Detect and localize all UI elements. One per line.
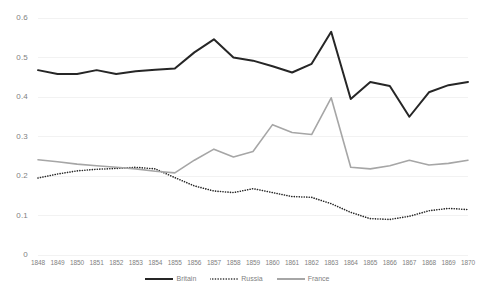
legend-item-britain[interactable]: Britain	[145, 274, 196, 283]
y-axis-tick-label: 0	[2, 250, 28, 259]
legend-swatch-russia-icon	[210, 275, 238, 283]
y-axis-tick-label: 0.6	[2, 13, 28, 22]
legend-swatch-britain-icon	[145, 275, 173, 283]
chart-legend: BritainRussiaFrance	[0, 274, 475, 283]
legend-item-russia[interactable]: Russia	[210, 274, 262, 283]
series-line-russia	[38, 167, 468, 219]
legend-label: Russia	[241, 274, 262, 283]
y-axis-tick-label: 0.2	[2, 171, 28, 180]
y-axis-tick-label: 0.5	[2, 53, 28, 62]
y-axis-tick-label: 0.3	[2, 132, 28, 141]
y-axis-tick-label: 0.4	[2, 92, 28, 101]
legend-label: France	[308, 274, 330, 283]
y-axis-tick-label: 0.1	[2, 211, 28, 220]
gridlines	[38, 18, 468, 255]
series-line-britain	[38, 32, 468, 117]
legend-item-france[interactable]: France	[277, 274, 330, 283]
legend-swatch-france-icon	[277, 275, 305, 283]
x-axis-tick-label: 1870	[456, 259, 480, 267]
legend-label: Britain	[176, 274, 196, 283]
